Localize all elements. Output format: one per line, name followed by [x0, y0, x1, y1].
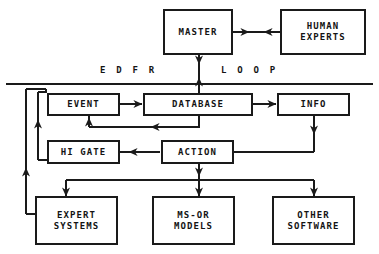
node-database-label: DATABASE [172, 99, 224, 110]
node-expert-systems[interactable]: EXPERT SYSTEMS [35, 196, 118, 245]
node-expert-systems-label-line2: SYSTEMS [54, 221, 100, 232]
node-human-experts-label-line1: HUMAN [307, 21, 340, 32]
node-other-software[interactable]: OTHER SOFTWARE [272, 196, 355, 245]
node-human-experts-label-line2: EXPERTS [300, 32, 346, 43]
node-other-software-label-line1: OTHER [297, 210, 330, 221]
edfr-loop-label-right: L O O P [220, 65, 276, 75]
node-hi-gate-label: HI GATE [61, 147, 107, 158]
node-ms-or-models-label-line2: MODELS [174, 221, 213, 232]
node-event[interactable]: EVENT [47, 93, 120, 116]
diagram-canvas: MASTER HUMAN EXPERTS EVENT DATABASE INFO… [0, 0, 379, 254]
edfr-loop-label-left: E D F R [99, 65, 155, 75]
node-expert-systems-label-line1: EXPERT [57, 210, 96, 221]
node-ms-or-models-label-line1: MS-OR [177, 210, 210, 221]
node-info-label: INFO [300, 99, 326, 110]
node-action-label: ACTION [178, 147, 217, 158]
node-other-software-label-line2: SOFTWARE [287, 221, 339, 232]
node-human-experts[interactable]: HUMAN EXPERTS [280, 9, 366, 55]
node-master[interactable]: MASTER [163, 9, 233, 55]
node-master-label: MASTER [178, 27, 217, 38]
node-ms-or-models[interactable]: MS-OR MODELS [152, 196, 235, 245]
node-database[interactable]: DATABASE [143, 93, 253, 116]
node-event-label: EVENT [67, 99, 100, 110]
node-hi-gate[interactable]: HI GATE [47, 140, 120, 164]
node-action[interactable]: ACTION [161, 140, 234, 164]
node-info[interactable]: INFO [277, 93, 350, 116]
